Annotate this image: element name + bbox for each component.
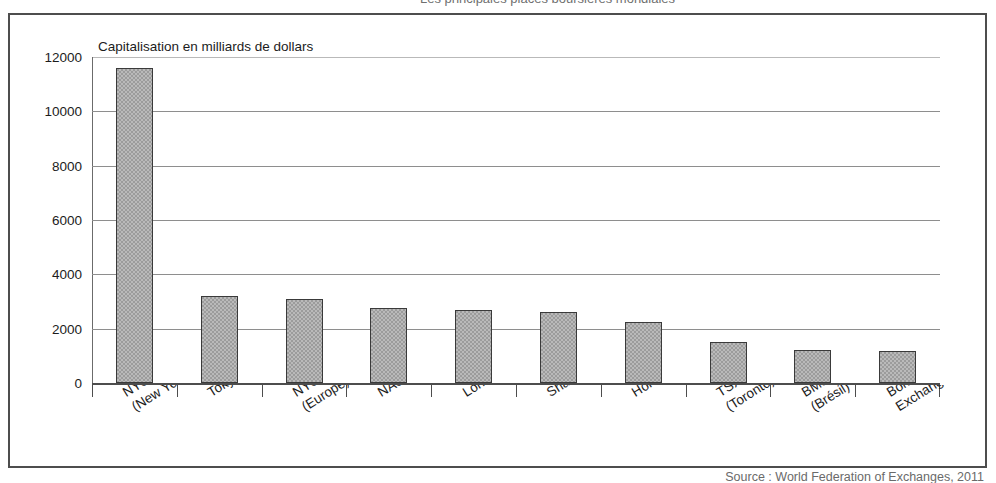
bar <box>455 310 492 383</box>
figure-frame: Capitalisation en milliards de dollars 0… <box>8 13 987 468</box>
y-tick-label: 2000 <box>52 321 82 336</box>
x-axis-label: NYSE Euronext(New York) <box>120 385 218 416</box>
gridline <box>92 274 940 275</box>
plot-area <box>92 57 940 383</box>
x-axis-label: Shanghai SE <box>544 385 620 401</box>
bar <box>794 350 831 383</box>
y-tick-label: 10000 <box>44 104 82 119</box>
x-axis-label: TSX Group(Toronto) <box>714 385 789 416</box>
bar <box>201 296 238 383</box>
plot-top-rule <box>92 57 940 58</box>
bar <box>540 312 577 383</box>
x-axis-label-line: London SE <box>460 385 526 401</box>
bar <box>286 299 323 383</box>
y-axis: 020004000600080001000012000 <box>10 57 92 383</box>
x-axis-label: London SE <box>460 385 526 401</box>
x-axis-label: NASDAQ OMX <box>375 385 462 401</box>
figure-top-caption: Les principales places boursières mondia… <box>420 0 675 6</box>
x-axis-label: Bombay StockExchange (Inde) <box>884 385 986 416</box>
x-axis-label: BM&FBovespa(Brésil) <box>799 385 893 416</box>
source-note-strip: Source : World Federation of Exchanges, … <box>0 470 996 483</box>
y-tick-label: 6000 <box>52 213 82 228</box>
bar <box>710 342 747 383</box>
bar <box>625 322 662 383</box>
gridline <box>92 111 940 112</box>
x-axis-label: NYSE Euronext'(Europe) <box>290 385 390 416</box>
bar <box>370 308 407 383</box>
chart-title: Capitalisation en milliards de dollars <box>98 39 313 54</box>
x-axis-label-line: NASDAQ OMX <box>375 385 462 401</box>
y-tick-label: 0 <box>74 376 82 391</box>
y-tick-label: 12000 <box>44 50 82 65</box>
y-tick-label: 4000 <box>52 267 82 282</box>
y-tick-label: 8000 <box>52 158 82 173</box>
gridline <box>92 166 940 167</box>
gridline <box>92 220 940 221</box>
figure-top-caption-strip: Les principales places boursières mondia… <box>0 0 996 9</box>
bar <box>116 68 153 383</box>
x-axis-label-line: Shanghai SE <box>544 385 620 401</box>
bar <box>879 351 916 383</box>
source-note: Source : World Federation of Exchanges, … <box>725 470 984 483</box>
x-axis-labels: NYSE Euronext(New York)Tokyo Stock Excha… <box>92 385 990 468</box>
